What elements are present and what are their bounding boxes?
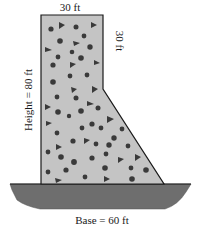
base-label: Base = 60 ft [75, 214, 129, 226]
top-width-label: 30 ft [60, 1, 80, 13]
ground [10, 184, 191, 209]
right-vertical-label: 30 ft [114, 31, 126, 51]
dam-diagram: 30 ft 30 ft Height = 80 ft Base = 60 ft [0, 0, 206, 229]
height-label: Height = 80 ft [22, 69, 34, 131]
